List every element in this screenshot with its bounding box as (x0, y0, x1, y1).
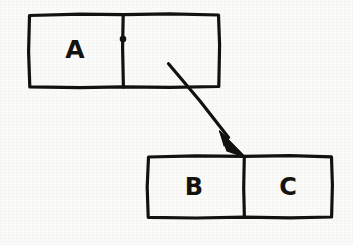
bottom-cell-cdr-label: C (279, 173, 297, 201)
bottom-cell-car-label: B (185, 173, 203, 201)
bottom-cons-cell[interactable]: B C (147, 156, 332, 218)
top-cons-cell[interactable]: A (29, 14, 220, 88)
diagram-canvas: A B C (0, 0, 353, 245)
bottom-cell-divider (244, 157, 245, 218)
cdr-pointer-arrow (169, 64, 246, 158)
cdr-pointer-dot (120, 36, 125, 41)
top-cell-car-label: A (65, 35, 85, 64)
top-cell-divider (123, 15, 124, 87)
diagram-svg: A B C (0, 0, 353, 245)
bottom-cell-outline (147, 156, 332, 218)
